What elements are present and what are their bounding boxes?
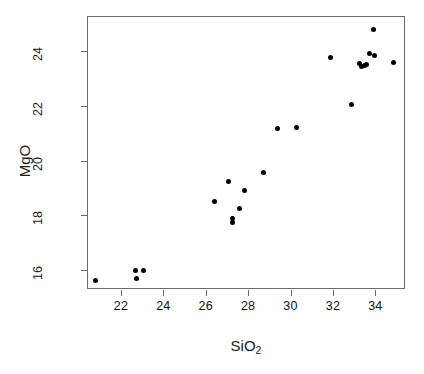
scatter-plot-figure: 1618202224 22242628303234 MgO SiO2	[0, 0, 424, 374]
x-axis-tick-label: 26	[186, 299, 226, 313]
data-point	[349, 102, 354, 107]
data-point	[371, 27, 376, 32]
x-axis-tick-label: 30	[271, 299, 311, 313]
data-point	[294, 125, 299, 130]
y-axis-tick-label-text: 24	[31, 48, 45, 62]
y-axis-tick-label-text: 16	[31, 266, 45, 280]
y-axis-tick-label: 16	[0, 263, 76, 277]
data-point	[237, 206, 242, 211]
data-point	[230, 220, 235, 225]
y-axis-tick	[81, 106, 87, 107]
data-point	[242, 188, 247, 193]
y-axis-tick	[81, 51, 87, 52]
x-axis-title: SiO2	[87, 337, 405, 354]
data-point	[275, 126, 280, 131]
data-point	[141, 268, 146, 273]
y-axis-tick-label: 20	[0, 154, 76, 168]
x-axis-title-subscript: 2	[256, 344, 262, 356]
data-point	[364, 62, 369, 67]
data-point	[359, 64, 364, 69]
x-axis-tick	[248, 290, 249, 296]
y-axis-tick	[81, 215, 87, 216]
x-axis-tick-label: 22	[101, 299, 141, 313]
y-axis-tick-label-text: 18	[31, 211, 45, 225]
data-point	[212, 199, 217, 204]
data-point	[261, 170, 266, 175]
x-axis-tick-label: 32	[313, 299, 353, 313]
data-point	[367, 51, 372, 56]
y-axis-tick	[81, 161, 87, 162]
plot-area	[87, 16, 405, 289]
data-point	[226, 179, 231, 184]
y-axis-tick-label-text: 22	[31, 102, 45, 116]
x-axis-tick	[375, 290, 376, 296]
x-axis-tick-label: 28	[228, 299, 268, 313]
data-point	[391, 60, 396, 65]
y-axis-title-text: MgO	[16, 145, 33, 178]
y-axis-title: MgO	[13, 131, 35, 191]
x-axis-tick	[291, 290, 292, 296]
x-axis-tick-label: 24	[143, 299, 183, 313]
data-point	[357, 61, 362, 66]
data-point	[133, 268, 138, 273]
data-point	[230, 216, 235, 221]
x-axis-tick	[333, 290, 334, 296]
y-axis-tick-label: 18	[0, 208, 76, 222]
data-point	[93, 278, 98, 283]
data-points-layer	[88, 17, 404, 288]
x-axis-tick	[163, 290, 164, 296]
y-axis-tick-label: 22	[0, 99, 76, 113]
y-axis-tick-label: 24	[0, 44, 76, 58]
x-axis-tick	[121, 290, 122, 296]
x-axis-tick-label: 34	[355, 299, 395, 313]
y-axis-tick	[81, 270, 87, 271]
data-point	[372, 53, 377, 58]
data-point	[362, 63, 367, 68]
x-axis-title-base: SiO	[231, 337, 256, 354]
data-point	[328, 55, 333, 60]
data-point	[134, 276, 139, 281]
x-axis-tick	[206, 290, 207, 296]
